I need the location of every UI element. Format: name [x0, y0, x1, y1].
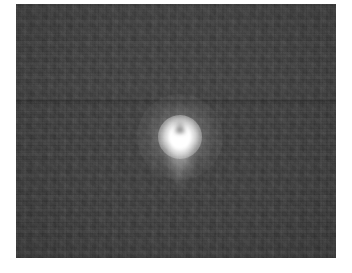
photo-frame [16, 4, 336, 258]
image-viewport [0, 0, 352, 273]
field-vignette [16, 4, 336, 258]
